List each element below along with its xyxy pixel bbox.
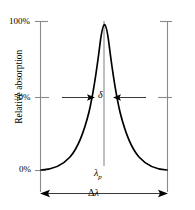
linewidth-delta-label: δ: [98, 90, 103, 100]
range-lambda-symbol: λ: [94, 187, 98, 198]
peak-wavelength-label: λp: [94, 168, 102, 181]
y-tick-label-0: 0%: [19, 165, 31, 174]
y-tick-label-100: 100%: [9, 17, 30, 26]
y-tick-label-50: 50%: [14, 93, 31, 102]
y-axis-title: Relative absorption: [15, 35, 25, 139]
absorption-spectrum-figure: Relative absorption 100% 50% 0% δ λp Δλ: [0, 0, 195, 210]
peak-wavelength-subscript: p: [98, 173, 102, 181]
spectral-range-label: Δλ: [88, 188, 99, 198]
